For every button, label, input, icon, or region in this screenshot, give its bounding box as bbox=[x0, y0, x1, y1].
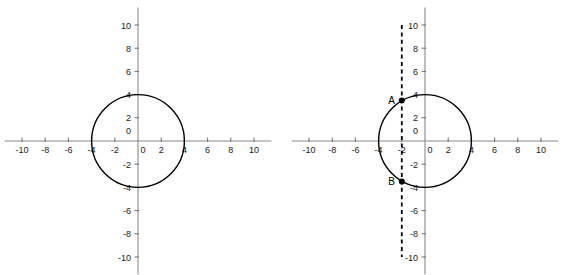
y-tick-label: -2 bbox=[123, 160, 131, 170]
y-tick-label: 8 bbox=[126, 44, 131, 54]
y-tick-label: -10 bbox=[405, 253, 418, 263]
y-origin-label: 0 bbox=[413, 126, 418, 136]
coordinate-plane-left: -10-8-6-4-22468100-10-8-6-4-22468100 bbox=[0, 0, 286, 275]
plotted-point-a bbox=[399, 97, 405, 103]
x-tick-label: -6 bbox=[351, 145, 359, 155]
x-tick-label: 2 bbox=[159, 145, 164, 155]
x-tick-label: -8 bbox=[41, 145, 49, 155]
x-tick-label: -2 bbox=[111, 145, 119, 155]
x-tick-label: -10 bbox=[302, 145, 315, 155]
x-tick-label: 8 bbox=[228, 145, 233, 155]
x-tick-label: 6 bbox=[205, 145, 210, 155]
y-tick-label: 2 bbox=[413, 113, 418, 123]
graph-panel-right: -10-8-6-4-22468100-10-8-6-4-22468100AB bbox=[286, 0, 572, 275]
y-tick-label: 8 bbox=[413, 44, 418, 54]
y-tick-label: -4 bbox=[410, 183, 418, 193]
y-tick-label: 10 bbox=[121, 21, 131, 31]
x-tick-label: 10 bbox=[249, 145, 259, 155]
y-tick-label: 6 bbox=[126, 67, 131, 77]
x-tick-label: -10 bbox=[15, 145, 28, 155]
x-tick-label: -6 bbox=[64, 145, 72, 155]
point-label-b: B bbox=[388, 176, 395, 187]
y-tick-label: -6 bbox=[410, 206, 418, 216]
x-tick-label: 2 bbox=[446, 145, 451, 155]
y-tick-label: -2 bbox=[410, 160, 418, 170]
x-tick-label: 8 bbox=[515, 145, 520, 155]
y-tick-label: -8 bbox=[410, 229, 418, 239]
y-tick-label: 6 bbox=[413, 67, 418, 77]
x-tick-label: -8 bbox=[328, 145, 336, 155]
x-origin-label: 0 bbox=[140, 145, 145, 155]
y-tick-label: 10 bbox=[408, 21, 418, 31]
plotted-point-b bbox=[399, 179, 405, 185]
x-origin-label: 0 bbox=[427, 145, 432, 155]
coordinate-plane-right: -10-8-6-4-22468100-10-8-6-4-22468100AB bbox=[286, 0, 572, 275]
graph-panel-left: -10-8-6-4-22468100-10-8-6-4-22468100 bbox=[0, 0, 286, 275]
x-tick-label: 10 bbox=[536, 145, 546, 155]
x-tick-label: 6 bbox=[492, 145, 497, 155]
y-tick-label: -6 bbox=[123, 206, 131, 216]
y-tick-label: -10 bbox=[118, 253, 131, 263]
point-label-a: A bbox=[388, 95, 395, 106]
two-panel-circle-figure: -10-8-6-4-22468100-10-8-6-4-22468100 -10… bbox=[0, 0, 572, 275]
y-tick-label: -4 bbox=[123, 183, 131, 193]
y-tick-label: -8 bbox=[123, 229, 131, 239]
y-origin-label: 0 bbox=[126, 126, 131, 136]
y-tick-label: 2 bbox=[126, 113, 131, 123]
